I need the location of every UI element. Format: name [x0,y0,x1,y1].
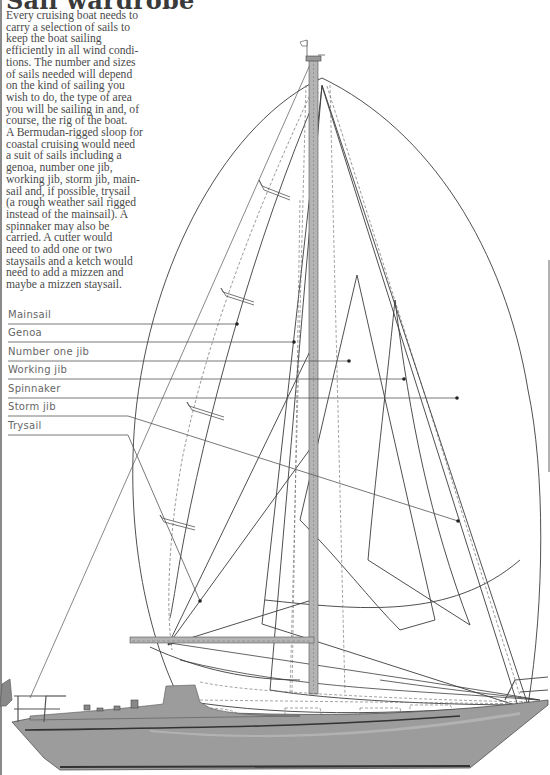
legend-label-working-jib: Working jib [8,364,67,375]
legend-leader-dots [198,322,460,603]
masthead-flag-icon [300,40,325,56]
boot-top-stripe [60,766,470,767]
legend-label-number-one-jib: Number one jib [8,346,89,357]
spinnaker-luff-dashed [169,78,318,650]
legend-label-storm-jib: Storm jib [8,401,56,412]
cabin-trunk [30,685,300,720]
mainsail-leech [170,92,318,618]
legend-label-spinnaker: Spinnaker [8,383,61,394]
trysail-sheet [168,345,313,645]
legend-leaders [8,324,458,601]
number-one-jib-sail [262,86,518,706]
working-jib-sail [300,275,435,630]
legend-label-mainsail: Mainsail [8,309,51,320]
storm-jib-sail [368,300,470,625]
legend-label-trysail: Trysail [8,420,42,431]
mainsail-battens [160,180,290,530]
trysail-sail [168,445,313,645]
sailboat-diagram [0,0,550,775]
boom [130,637,314,643]
masthead [306,56,321,61]
mainsail-foot [150,647,300,680]
spinnaker-sail [133,78,541,713]
ensign-flag-icon [0,679,12,706]
legend-label-genoa: Genoa [8,327,42,338]
